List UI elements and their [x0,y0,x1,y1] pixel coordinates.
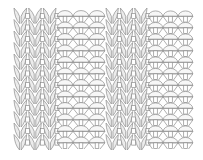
purl-leg [159,108,164,114]
purl-leg [174,131,179,137]
purl-bump [178,11,192,16]
purl-stem [63,74,67,80]
purl-bump [57,126,72,132]
purl-bump [148,80,162,85]
purl-stem [79,143,83,149]
knit-link-box [40,59,44,64]
purl-leg [84,108,89,114]
purl-leg [189,143,194,149]
purl-stem [184,51,188,57]
purl-leg [89,16,94,22]
purl-stem [95,62,99,68]
purl-bump [148,137,162,142]
knit-link-box [117,128,121,133]
purl-bump [148,68,162,73]
purl-leg [73,28,78,34]
purl-leg [163,108,168,114]
purl-bump [57,68,72,74]
purl-stem [184,62,188,68]
purl-bump [163,57,177,62]
purl-bump [163,137,177,142]
purl-stem [79,97,83,103]
purl-leg [73,62,78,68]
purl-leg [57,120,62,126]
purl-stem [154,120,158,126]
knit-link-box [40,13,44,18]
purl-leg [73,74,78,80]
purl-bump [178,103,192,108]
purl-leg [84,120,89,126]
purl-leg [68,16,73,22]
purl-stem [63,97,67,103]
purl-leg [84,131,89,137]
purl-leg [89,108,94,114]
purl-leg [84,85,89,91]
purl-bump [73,57,88,63]
purl-leg [163,74,168,80]
purl-leg [84,16,89,22]
purl-bump [148,91,162,96]
purl-leg [57,16,62,22]
knit-link-box [132,13,136,18]
purl-stem [184,143,188,149]
purl-bump [89,91,104,97]
purl-bump [163,114,177,119]
knit-link-box [132,71,136,76]
purl-leg [178,62,183,68]
purl-bump [148,22,162,27]
purl-leg [73,108,78,114]
purl-leg [57,97,62,103]
purl-leg [100,97,105,103]
purl-leg [89,85,94,91]
purl-stem [63,51,67,57]
knit-link-box [40,128,44,133]
purl-stem [169,131,173,137]
purl-stem [63,28,67,34]
purl-stem [95,143,99,149]
purl-stem [95,51,99,57]
purl-stem [95,85,99,91]
purl-bump [163,22,177,27]
purl-bump [89,11,104,17]
purl-bump [163,80,177,85]
purl-leg [73,16,78,22]
purl-leg [57,74,62,80]
purl-leg [178,74,183,80]
purl-leg [68,39,73,45]
purl-bump [163,126,177,131]
knit-link-box [40,36,44,41]
purl-stem [169,143,173,149]
purl-leg [100,143,105,149]
purl-stem [79,120,83,126]
purl-leg [73,51,78,57]
knit-link-box [26,13,30,18]
knit-link-box [117,82,121,87]
purl-bump [178,22,192,27]
purl-stem [63,120,67,126]
knit-link-box [26,105,30,110]
purl-stem [154,28,158,34]
knit-link-box [26,82,30,87]
purl-leg [89,143,94,149]
purl-leg [178,120,183,126]
purl-bump [148,45,162,50]
purl-leg [178,143,183,149]
knit-link-box [40,140,44,145]
purl-stem [79,131,83,137]
purl-stem [95,131,99,137]
purl-leg [178,85,183,91]
purl-leg [174,120,179,126]
purl-stem [184,120,188,126]
purl-bump [57,137,72,143]
purl-leg [57,39,62,45]
purl-stem [184,85,188,91]
purl-bump [57,45,72,51]
purl-leg [163,85,168,91]
purl-bump [89,22,104,28]
purl-leg [174,108,179,114]
purl-leg [189,131,194,137]
purl-stem [154,16,158,22]
purl-leg [100,16,105,22]
purl-leg [163,51,168,57]
knit-link-box [117,140,121,145]
